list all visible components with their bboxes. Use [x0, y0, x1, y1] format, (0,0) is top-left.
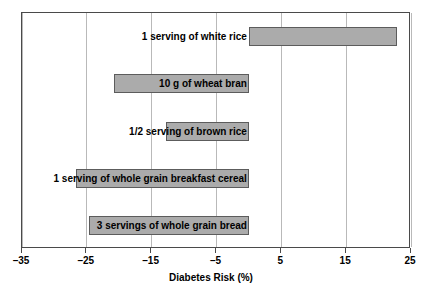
x-tick-label: –15	[131, 255, 171, 266]
x-tick-label: –25	[66, 255, 106, 266]
gridline	[411, 13, 412, 247]
bar-label: 10 g of wheat bran	[0, 74, 247, 93]
gridline	[281, 13, 282, 247]
diabetes-risk-bar-chart: 1 serving of white rice10 g of wheat bra…	[0, 0, 422, 297]
x-tick-mark	[345, 248, 346, 253]
x-tick-label: 5	[260, 255, 300, 266]
bar-label: 3 servings of whole grain bread	[0, 216, 247, 235]
gridline	[346, 13, 347, 247]
bar-label: 1 serving of whole grain breakfast cerea…	[0, 169, 247, 188]
x-tick-mark	[21, 248, 22, 253]
x-tick-mark	[215, 248, 216, 253]
bar-label: 1 serving of white rice	[0, 27, 247, 46]
x-tick-label: –35	[1, 255, 41, 266]
x-tick-mark	[150, 248, 151, 253]
bar	[249, 27, 397, 46]
x-tick-label: –5	[196, 255, 236, 266]
x-tick-mark	[85, 248, 86, 253]
x-tick-label: 15	[325, 255, 365, 266]
x-tick-mark	[280, 248, 281, 253]
x-tick-label: 25	[390, 255, 422, 266]
bar-label: 1/2 serving of brown rice	[0, 122, 247, 141]
x-tick-mark	[410, 248, 411, 253]
x-axis-title: Diabetes Risk (%)	[0, 272, 422, 283]
plot-area: 1 serving of white rice10 g of wheat bra…	[21, 12, 410, 248]
